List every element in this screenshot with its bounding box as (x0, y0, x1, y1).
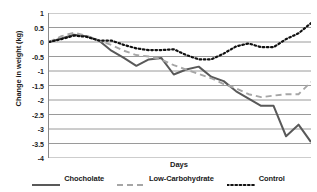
plot-svg (49, 13, 311, 158)
legend-item-control[interactable]: Control (227, 174, 285, 183)
legend-swatch-icon (32, 175, 60, 183)
legend-item-low-carbohydrate[interactable]: Low-Carbohydrate (117, 174, 214, 183)
series-line-chocholate (49, 35, 311, 142)
chart-legend: ChocholateLow-CarbohydrateControl (0, 174, 317, 183)
x-axis-title: Days (48, 160, 310, 169)
y-tick-label: -4 (22, 155, 44, 162)
y-tick-label: -1 (22, 68, 44, 75)
legend-item-chocholate[interactable]: Chocholate (32, 174, 104, 183)
y-tick-label: -3 (22, 126, 44, 133)
legend-label: Chocholate (64, 174, 104, 183)
legend-swatch-icon (227, 175, 255, 183)
y-tick-label: -0.5 (22, 53, 44, 60)
y-tick-label: 1 (22, 10, 44, 17)
y-tick-label: 0 (22, 39, 44, 46)
legend-swatch-icon (117, 175, 145, 183)
legend-label: Low-Carbohydrate (149, 174, 214, 183)
weight-change-line-chart: Change in weight (kg) 10.50-0.5-1-1.5-2-… (0, 0, 317, 192)
legend-label: Control (259, 174, 285, 183)
y-tick-label: -3.5 (22, 140, 44, 147)
y-tick-label: -2.5 (22, 111, 44, 118)
series-line-control (49, 23, 311, 59)
plot-area (48, 13, 311, 158)
y-tick-label: -2 (22, 97, 44, 104)
y-tick-label: 0.5 (22, 24, 44, 31)
y-axis-tick-labels: 10.50-0.5-1-1.5-2-2.5-3-3.5-4 (22, 8, 44, 158)
y-tick-label: -1.5 (22, 82, 44, 89)
